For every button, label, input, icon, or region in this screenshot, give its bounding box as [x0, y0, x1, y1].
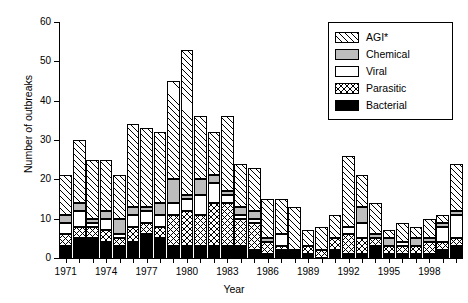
bar-segment-viral [113, 234, 126, 238]
bar-segment-parasitic [234, 219, 247, 247]
bar-segment-agi [194, 116, 207, 179]
bar-segment-bacterial [302, 254, 315, 258]
bar-segment-viral [234, 215, 247, 219]
x-tick [281, 259, 282, 263]
bar-segment-viral [208, 183, 221, 203]
bar-segment-bacterial [248, 250, 261, 258]
bar-1997 [410, 227, 423, 258]
bar-1998 [423, 219, 436, 258]
bar-1981 [194, 116, 207, 258]
bar-segment-agi [275, 199, 288, 234]
bar-1990 [315, 227, 328, 258]
bar-segment-viral [59, 223, 72, 235]
x-tick [79, 259, 80, 263]
bar-segment-bacterial [140, 234, 153, 258]
bar-1975 [113, 175, 126, 258]
bar-segment-agi [59, 175, 72, 214]
x-tick-label: 1977 [127, 266, 167, 277]
x-tick [120, 259, 121, 263]
legend-label: AGI* [366, 32, 388, 43]
bar-segment-viral [127, 215, 140, 227]
bar-segment-viral [342, 227, 355, 235]
legend-label: Chemical [366, 49, 410, 60]
bar-segment-agi [356, 175, 369, 206]
bar-1985 [248, 168, 261, 258]
bar-segment-agi [450, 164, 463, 211]
x-tick [349, 259, 350, 263]
bar-1989 [302, 230, 315, 258]
y-axis-label: Number of outbreaks [22, 44, 34, 204]
bar-1995 [383, 230, 396, 258]
bar-segment-bacterial [342, 254, 355, 258]
bar-1978 [154, 132, 167, 258]
legend-label: Viral [366, 66, 387, 77]
bar-1980 [181, 50, 194, 258]
bar-segment-chemical [154, 203, 167, 215]
bar-segment-chemical [127, 207, 140, 215]
x-tick [389, 259, 390, 263]
x-tick [402, 259, 403, 263]
bar-segment-parasitic [369, 238, 382, 246]
bar-segment-parasitic [181, 211, 194, 246]
bar-segment-bacterial [73, 238, 86, 258]
bar-segment-agi [410, 227, 423, 239]
x-tick-label: 1980 [167, 266, 207, 277]
bar-segment-viral [73, 211, 86, 227]
x-tick-label: 1998 [409, 266, 449, 277]
bar-segment-agi [113, 175, 126, 218]
x-tick-label: 1992 [329, 266, 369, 277]
bar-segment-agi [315, 227, 328, 251]
legend-swatch-agi [335, 32, 359, 43]
x-tick [227, 259, 228, 263]
bar-segment-viral [221, 195, 234, 203]
bar-segment-parasitic [208, 203, 221, 246]
x-tick [322, 259, 323, 263]
bar-segment-chemical [423, 238, 436, 242]
bar-segment-chemical [410, 238, 423, 246]
bar-segment-parasitic [100, 230, 113, 242]
bar-segment-parasitic [302, 246, 315, 254]
bar-1984 [234, 164, 247, 258]
bar-segment-chemical [194, 179, 207, 195]
bar-segment-parasitic [329, 238, 342, 250]
bar-segment-agi [208, 132, 221, 175]
bar-segment-agi [221, 116, 234, 191]
bar-segment-chemical [356, 207, 369, 223]
x-axis-label: Year [0, 283, 468, 295]
bar-segment-parasitic [261, 242, 274, 254]
bar-segment-parasitic [221, 203, 234, 246]
bar-segment-agi [140, 128, 153, 207]
legend-swatch-bacterial [335, 100, 359, 111]
bar-segment-chemical [261, 238, 274, 242]
x-tick [443, 259, 444, 263]
bar-segment-parasitic [436, 242, 449, 250]
bar-1986 [261, 199, 274, 258]
legend-swatch-chemical [335, 49, 359, 60]
bar-segment-agi [234, 164, 247, 207]
bar-segment-bacterial [194, 246, 207, 258]
bar-segment-parasitic [140, 223, 153, 235]
x-tick-label: 1983 [207, 266, 247, 277]
bar-segment-bacterial [396, 254, 409, 258]
bar-segment-bacterial [100, 242, 113, 258]
x-tick [160, 259, 161, 263]
bar-segment-chemical [86, 219, 99, 223]
bar-segment-parasitic [248, 223, 261, 251]
x-tick-label: 1971 [46, 266, 86, 277]
bar-1991 [329, 215, 342, 258]
legend-swatch-parasitic [335, 83, 359, 94]
bar-segment-bacterial [59, 246, 72, 258]
bar-segment-parasitic [423, 242, 436, 254]
x-tick [133, 259, 134, 263]
bar-segment-parasitic [356, 238, 369, 254]
bar-1999 [436, 215, 449, 258]
bar-segment-bacterial [288, 250, 301, 258]
bar-1988 [288, 207, 301, 258]
x-tick-label: 1989 [288, 266, 328, 277]
bar-1977 [140, 128, 153, 258]
x-tick-label: 1974 [86, 266, 126, 277]
chart-figure: 0102030405060 Number of outbreaks 197119… [0, 0, 468, 303]
bar-1979 [167, 81, 180, 258]
bar-segment-chemical [221, 191, 234, 195]
x-tick [362, 259, 363, 263]
